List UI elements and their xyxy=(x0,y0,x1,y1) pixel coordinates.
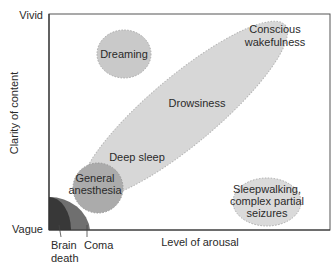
anesthesia-label-2: anesthesia xyxy=(68,184,122,196)
brain-death-label-2: death xyxy=(51,252,79,264)
conscious-label-2: wakefulness xyxy=(244,36,306,48)
consciousness-diagram: Dreaming Conscious wakefulness Drowsines… xyxy=(0,0,334,266)
y-top-label: Vivid xyxy=(19,9,43,21)
sleepwalking-label-2: complex partial xyxy=(230,195,304,207)
sleepwalking-label-1: Sleepwalking, xyxy=(233,183,301,195)
conscious-label-1: Conscious xyxy=(249,23,301,35)
x-axis-label: Level of arousal xyxy=(161,236,239,248)
y-axis-label: Clarity of content xyxy=(8,72,20,155)
coma-label: Coma xyxy=(84,239,114,251)
sleepwalking-label-3: seizures xyxy=(247,207,288,219)
y-bottom-label: Vague xyxy=(12,223,43,235)
deep-sleep-label: Deep sleep xyxy=(109,151,165,163)
dreaming-label: Dreaming xyxy=(100,48,148,60)
drowsiness-label: Drowsiness xyxy=(169,97,226,109)
brain-death-label-1: Brain xyxy=(51,239,77,251)
anesthesia-label-1: General xyxy=(75,172,114,184)
